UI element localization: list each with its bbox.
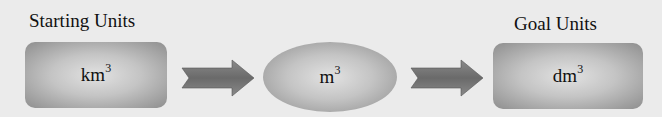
right-arrow-icon: [180, 59, 256, 97]
unit-exponent: 3: [105, 61, 111, 75]
starting-units-label: Starting Units: [29, 10, 135, 32]
unit-symbol: dm: [553, 66, 577, 87]
unit-symbol: km: [81, 65, 105, 86]
starting-unit-box: km3: [25, 42, 167, 108]
starting-unit-text: km3: [81, 63, 111, 86]
intermediate-unit-oval: m3: [263, 42, 397, 112]
unit-exponent: 3: [577, 62, 583, 76]
right-arrow-icon: [409, 59, 485, 97]
goal-unit-text: dm3: [553, 64, 583, 87]
unit-exponent: 3: [334, 63, 340, 77]
arrow-shape: [411, 60, 483, 96]
unit-symbol: m: [320, 67, 335, 88]
intermediate-unit-text: m3: [320, 65, 341, 88]
goal-unit-box: dm3: [493, 43, 643, 109]
goal-units-label: Goal Units: [514, 13, 597, 35]
arrow-shape: [182, 60, 254, 96]
